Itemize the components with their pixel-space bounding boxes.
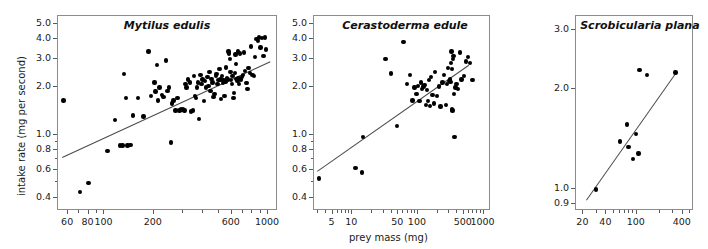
x-minor-tick — [596, 210, 597, 213]
y-tick-mark — [571, 29, 575, 30]
x-minor-tick — [632, 210, 633, 213]
plot-frame — [575, 15, 693, 210]
y-tick-mark — [571, 88, 575, 89]
figure-container: intake rate (mg per second) prey mass (m… — [0, 0, 708, 249]
x-minor-tick — [619, 210, 620, 213]
x-tick-mark — [682, 210, 683, 214]
x-minor-tick — [659, 210, 660, 213]
data-point — [618, 139, 622, 143]
panel-scrobicularia-plana: Scrobicularia plana0.91.02.03.0204010040… — [0, 0, 708, 249]
y-tick-label: 3.0 — [541, 23, 569, 34]
x-tick-label: 100 — [616, 216, 656, 227]
x-tick-label: 400 — [662, 216, 702, 227]
x-tick-mark — [605, 210, 606, 214]
data-point — [625, 122, 629, 126]
x-minor-tick — [613, 210, 614, 213]
x-minor-tick — [672, 210, 673, 213]
y-tick-mark — [571, 203, 575, 204]
data-point — [673, 70, 677, 74]
x-minor-tick — [689, 210, 690, 213]
data-point — [626, 145, 630, 149]
y-tick-mark — [571, 188, 575, 189]
x-minor-tick — [624, 210, 625, 213]
data-point — [636, 151, 640, 155]
panel-title: Scrobicularia plana — [580, 19, 699, 32]
x-tick-mark — [636, 210, 637, 214]
x-tick-mark — [582, 210, 583, 214]
x-minor-tick — [628, 210, 629, 213]
data-point — [594, 187, 598, 191]
y-tick-label: 0.9 — [541, 197, 569, 208]
data-point — [637, 68, 641, 72]
y-tick-label: 1.0 — [541, 182, 569, 193]
y-tick-label: 2.0 — [541, 82, 569, 93]
